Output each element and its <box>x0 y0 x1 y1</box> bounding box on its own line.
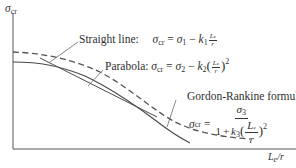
one: 1 <box>215 125 221 137</box>
parabola-label: Parabola: σcr = σ2 − k2(Ler)2 <box>105 58 229 75</box>
minus: − <box>188 60 195 72</box>
label-title: Gordon-Rankine formula: <box>187 90 296 102</box>
subscript: e <box>214 34 216 39</box>
subscript: e <box>253 125 255 130</box>
x-axis-label: Le/r <box>268 152 284 164</box>
subscript: 1 <box>182 38 186 47</box>
inner-fraction: Ler <box>245 120 257 145</box>
subscript: cr <box>11 7 17 16</box>
fraction: σ3 1+k3(Ler)2 <box>215 104 267 145</box>
equals: = <box>204 119 211 131</box>
left-paren: ( <box>240 123 244 138</box>
gordon-rankine-equation: σcr = σ3 1+k3(Ler)2 <box>189 104 267 145</box>
subscript: 2 <box>181 65 185 74</box>
fraction: Ler <box>212 60 220 75</box>
plus: + <box>223 125 229 137</box>
ratio-text: /r <box>277 151 284 162</box>
straight-line-label: Straight line: σcr = σ1 − k1Ler <box>79 33 218 48</box>
y-axis-label: σcr <box>5 3 17 16</box>
subscript: e <box>217 61 219 66</box>
equals: = <box>166 60 173 72</box>
denominator: r <box>211 41 214 48</box>
left-paren: ( <box>206 58 210 73</box>
gordon-rankine-label: Gordon-Rankine formula: <box>187 91 296 103</box>
subscript: cr <box>157 65 163 74</box>
exponent: 2 <box>263 122 267 131</box>
equals: = <box>167 33 174 45</box>
gordon-rankine-leader <box>167 100 176 127</box>
fraction: Ler <box>209 33 217 48</box>
subscript: 3 <box>242 108 246 117</box>
denominator: r <box>249 133 253 145</box>
subscript: cr <box>195 121 201 129</box>
denominator: r <box>215 68 218 75</box>
label-title: Parabola: <box>105 60 148 72</box>
subscript: cr <box>158 38 164 47</box>
exponent: 2 <box>225 57 229 66</box>
label-title: Straight line: <box>79 33 139 45</box>
subscript: 1 <box>204 38 208 47</box>
minus: − <box>189 33 196 45</box>
